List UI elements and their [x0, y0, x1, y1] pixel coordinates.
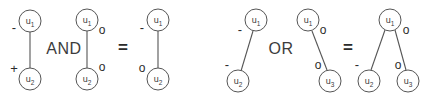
- graph-g5: u1 u3 o o: [297, 9, 341, 92]
- circ-mark-g2-u2: o: [99, 60, 106, 74]
- graph-g3: u1 u2 - o: [139, 9, 169, 90]
- sign-mark-g1-u2: +: [10, 61, 18, 76]
- sign-mark-g1-u1: -: [12, 20, 16, 35]
- signed-graph-composition-figure: u1 u2 - + AND u1 u2 o o = u1 u2 -: [0, 0, 427, 101]
- operator-and: AND: [46, 40, 81, 57]
- graph-g4: u1 u2 - -: [225, 9, 267, 92]
- sign-mark-g4-u1: -: [238, 22, 242, 37]
- sign-mark-g4-u2: -: [225, 57, 229, 72]
- sign-mark-g3-u1: -: [140, 20, 144, 35]
- diagram-canvas: u1 u2 - + AND u1 u2 o o = u1 u2 -: [0, 0, 427, 101]
- circ-mark-g2-u1: o: [99, 23, 106, 37]
- operator-or: OR: [269, 40, 294, 57]
- circ-mark-g6-u1: o: [403, 23, 410, 37]
- circ-mark-g6-u3: o: [395, 58, 402, 72]
- equals-sign-1: =: [118, 38, 128, 57]
- circ-mark-g3-u2: o: [139, 61, 146, 75]
- circ-mark-g5-u1: o: [320, 23, 327, 37]
- equals-sign-2: =: [343, 38, 353, 57]
- edge-g4-u1-u2: [241, 31, 253, 71]
- circ-mark-g5-u3: o: [315, 58, 322, 72]
- edge-g6-u1-u2: [371, 30, 385, 70]
- sign-mark-g6-u2: -: [355, 57, 359, 72]
- graph-g1: u1 u2 - +: [10, 10, 41, 90]
- graph-g6: u1 u2 u3 o - o: [355, 9, 419, 92]
